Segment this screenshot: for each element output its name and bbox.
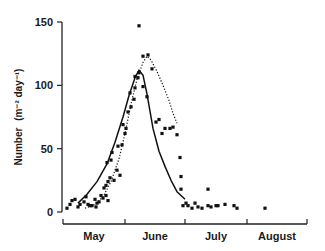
data-point [136,76,139,79]
data-point [104,194,107,197]
data-point [120,143,123,146]
data-point [109,158,112,161]
data-point [118,174,121,177]
data-point [171,126,174,129]
data-point [190,207,193,210]
x-tick-label: July [205,230,228,242]
data-point [150,67,153,70]
data-point [196,205,199,208]
data-point [106,180,109,183]
data-point [128,91,131,94]
fitted-curves [78,56,185,208]
data-point [179,188,182,191]
data-point [108,176,111,179]
data-points [65,24,266,210]
data-point [235,207,238,210]
data-point [132,98,135,101]
data-point [82,200,85,203]
data-point [121,123,124,126]
data-point [70,199,73,202]
data-point [209,205,212,208]
data-point [137,24,140,27]
data-point [154,120,157,123]
data-point [106,199,109,202]
y-ticks: 050100150 [35,16,62,218]
data-point [124,127,127,130]
data-point [84,195,87,198]
data-point [263,207,266,210]
data-point [123,132,126,135]
data-point [181,204,184,207]
data-point [115,169,118,172]
data-point [146,53,149,56]
data-point [126,110,129,113]
solid-curve [78,70,185,203]
data-point [160,132,163,135]
data-point [137,71,140,74]
data-point [175,133,178,136]
y-tick-label: 100 [35,79,53,91]
data-point [232,204,235,207]
data-point [101,196,104,199]
data-point [105,161,108,164]
data-point [178,156,181,159]
data-point [223,203,226,206]
data-point [78,203,81,206]
data-point [65,207,68,210]
y-tick-label: 150 [35,16,53,28]
data-point [168,127,171,130]
data-point [163,127,166,130]
data-point [97,200,100,203]
data-point [93,198,96,201]
data-point [145,95,148,98]
data-point [68,203,71,206]
data-point [179,175,182,178]
data-point [157,118,160,121]
data-point [133,86,136,89]
data-point [133,75,136,78]
data-point [94,205,97,208]
chart: 050100150 MayJuneJulyAugust Number (m⁻² … [0,0,325,251]
data-point [206,188,209,191]
data-point [73,198,76,201]
data-point [193,202,196,205]
data-point [110,151,113,154]
x-tick-label: June [142,230,168,242]
y-tick-label: 50 [41,143,53,155]
data-point [216,204,219,207]
data-point [206,204,209,207]
x-ticks: MayJuneJulyAugust [63,219,307,242]
x-tick-label: August [258,230,296,242]
data-point [141,55,144,58]
data-point [186,204,189,207]
data-point [141,85,144,88]
data-point [90,204,93,207]
data-point [129,105,132,108]
data-point [104,184,107,187]
y-tick-label: 0 [47,206,53,218]
data-point [116,145,119,148]
data-point [112,179,115,182]
data-point [200,207,203,210]
y-axis-title: Number (m⁻² day⁻¹) [13,69,24,166]
x-tick-label: May [83,230,105,242]
